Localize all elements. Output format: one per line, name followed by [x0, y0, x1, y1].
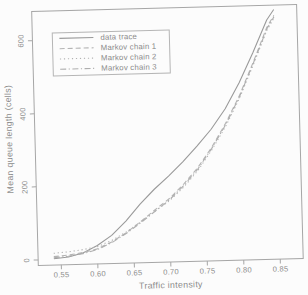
legend-label: Markov chain 2	[101, 52, 157, 62]
y-tick-label: 200	[20, 180, 29, 194]
y-axis-label: Mean queue length (cells)	[3, 85, 16, 194]
legend-label: Markov chain 1	[101, 42, 157, 52]
line-chart: 0.550.600.650.700.750.800.85 0200400600 …	[0, 0, 308, 295]
legend: data traceMarkov chain 1Markov chain 2Ma…	[52, 30, 170, 76]
y-tick-label: 0	[22, 258, 31, 263]
legend-label: Markov chain 3	[101, 62, 157, 72]
x-tick-label: 0.75	[200, 266, 216, 275]
x-tick-label: 0.80	[236, 265, 252, 274]
x-tick-label: 0.65	[127, 268, 143, 277]
y-tick-label: 600	[16, 34, 25, 48]
x-axis: 0.550.600.650.700.750.800.85	[54, 259, 289, 280]
x-tick-label: 0.60	[90, 269, 106, 278]
x-tick-label: 0.70	[163, 267, 179, 276]
x-tick-label: 0.55	[54, 270, 70, 279]
x-tick-label: 0.85	[273, 264, 289, 273]
chart-figure: 0.550.600.650.700.750.800.85 0200400600 …	[0, 0, 308, 295]
y-tick-label: 400	[18, 107, 27, 121]
x-axis-label: Traffic intensity	[139, 279, 203, 291]
legend-label: data trace	[100, 32, 137, 42]
